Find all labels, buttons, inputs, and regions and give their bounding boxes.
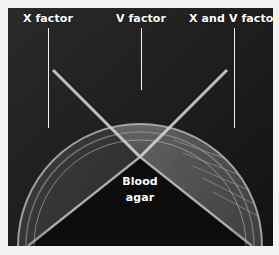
agar-plate-photo: X factor V factor X and V factor Blood a… (8, 8, 273, 246)
blood-agar-label-line1: Blood (122, 174, 158, 190)
blood-agar-label-line2: agar (122, 190, 158, 206)
x-factor-label: X factor (23, 12, 73, 25)
v-factor-leader-line (141, 28, 142, 90)
x-and-v-factor-label: X and V factor (189, 12, 273, 25)
blood-agar-label: Blood agar (122, 174, 158, 206)
x-factor-leader-line (48, 28, 49, 128)
v-factor-label: V factor (116, 12, 166, 25)
x-and-v-factor-leader-line (234, 28, 235, 128)
